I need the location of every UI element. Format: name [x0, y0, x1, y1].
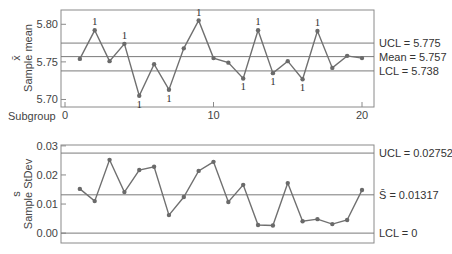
data-point — [182, 46, 186, 50]
data-point — [122, 190, 126, 194]
xbar-s-chart-svg: 5.705.755.8001020UCL = 5.775Mean = 5.757… — [0, 0, 452, 254]
data-point — [78, 57, 82, 61]
x-tick-label: 20 — [356, 109, 368, 121]
data-point — [241, 183, 245, 187]
ref-label-lcl: LCL = 5.738 — [379, 65, 439, 77]
out-of-control-flag: 1 — [137, 98, 143, 110]
out-of-control-flag: 1 — [270, 75, 276, 87]
data-point — [286, 181, 290, 185]
data-point — [330, 222, 334, 226]
y-tick-label: 5.70 — [37, 93, 58, 105]
ref-label-sbar: S̄ = 0.01317 — [379, 189, 439, 201]
data-point — [196, 169, 200, 173]
y-tick-label: 5.80 — [37, 18, 58, 30]
ref-label-mean: Mean = 5.757 — [379, 51, 447, 63]
control-chart: 5.705.755.8001020UCL = 5.775Mean = 5.757… — [0, 0, 452, 254]
data-point — [122, 42, 126, 46]
data-point — [211, 160, 215, 164]
data-point — [360, 188, 364, 192]
data-point — [315, 217, 319, 221]
data-point — [286, 59, 290, 63]
data-point — [93, 199, 97, 203]
data-point — [226, 60, 230, 64]
ref-label-ucl: UCL = 5.775 — [379, 37, 441, 49]
data-point — [315, 29, 319, 33]
out-of-control-flag: 1 — [300, 81, 306, 93]
ref-label-ucl: UCL = 0.02752 — [379, 147, 452, 159]
xbar-axis-symbol: x̄ — [10, 55, 22, 61]
out-of-control-flag: 1 — [166, 92, 172, 104]
data-point — [226, 200, 230, 204]
out-of-control-flag: 1 — [196, 6, 202, 18]
subgroup-axis-label: Subgroup — [8, 110, 56, 122]
out-of-control-flag: 1 — [255, 15, 261, 27]
out-of-control-flag: 1 — [122, 29, 128, 41]
x-tick-label: 10 — [207, 109, 219, 121]
data-point — [137, 168, 141, 172]
y-tick-label: 5.75 — [37, 56, 58, 68]
data-point — [360, 56, 364, 60]
data-point — [256, 28, 260, 32]
ref-label-lcl: LCL = 0 — [379, 227, 417, 239]
x-tick-label: 0 — [62, 109, 68, 121]
data-point — [152, 165, 156, 169]
out-of-control-flag: 1 — [315, 16, 321, 28]
y-tick-label: 0.00 — [37, 227, 58, 239]
data-point — [256, 223, 260, 227]
out-of-control-flag: 1 — [240, 80, 246, 92]
data-point — [107, 158, 111, 162]
data-point — [300, 219, 304, 223]
stdev-axis-title: Sample StDev — [22, 158, 34, 229]
data-point — [78, 187, 82, 191]
out-of-control-flag: 1 — [92, 15, 98, 27]
xbar-axis-title: Sample mean — [22, 24, 34, 92]
data-point — [167, 213, 171, 217]
data-point — [152, 62, 156, 66]
y-tick-label: 0.01 — [37, 198, 58, 210]
data-point — [330, 66, 334, 70]
data-point — [271, 223, 275, 227]
data-point — [93, 28, 97, 32]
data-point — [182, 195, 186, 199]
data-point — [345, 54, 349, 58]
y-tick-label: 0.03 — [37, 140, 58, 152]
data-point — [196, 18, 200, 22]
sample-stdev-line — [80, 160, 362, 226]
data-point — [345, 218, 349, 222]
data-point — [107, 59, 111, 63]
data-point — [211, 56, 215, 60]
stdev-axis-symbol: s — [10, 191, 22, 197]
y-tick-label: 0.02 — [37, 169, 58, 181]
